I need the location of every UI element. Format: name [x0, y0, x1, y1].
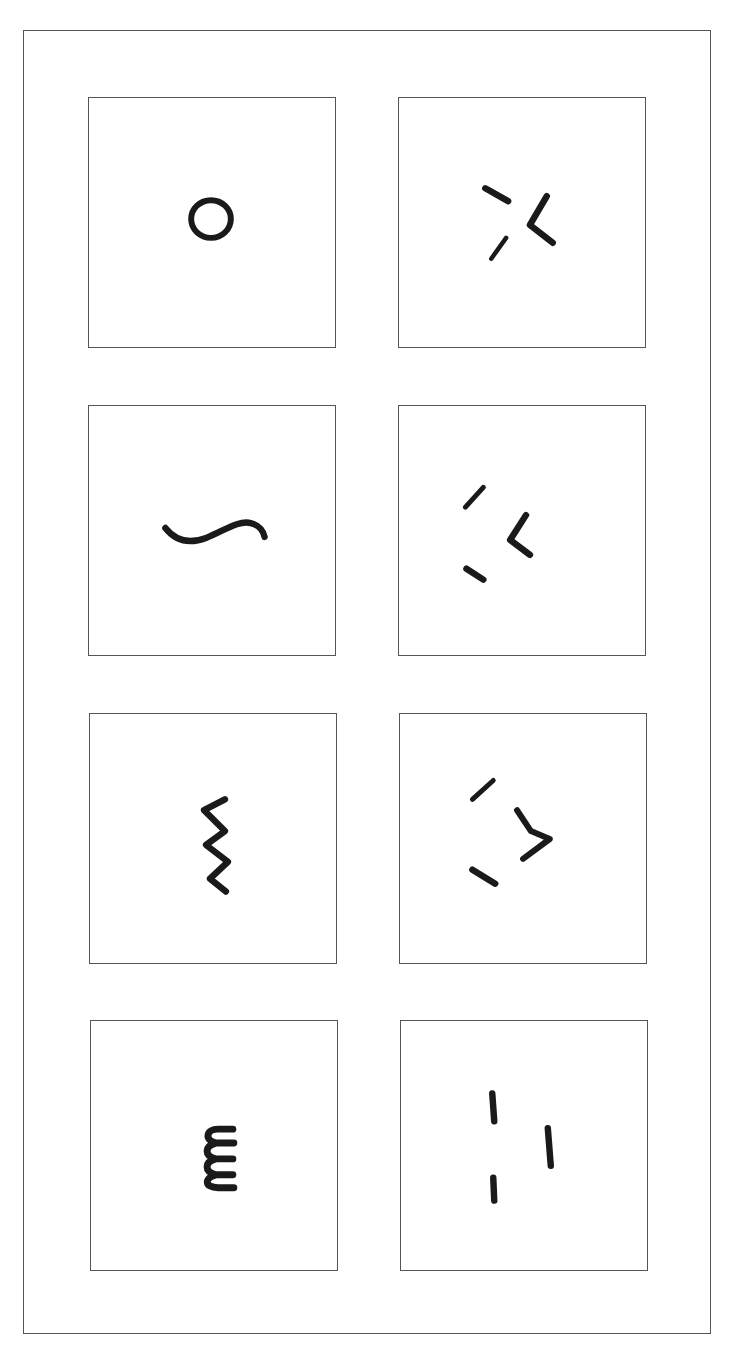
- panel-row4-right: [400, 1020, 648, 1271]
- panel-row1-right: [398, 97, 646, 348]
- coil-shape-icon: [91, 1021, 337, 1270]
- panel-row2-left: [88, 405, 336, 656]
- panel-row3-right: [399, 713, 647, 964]
- panel-row4-left: [90, 1020, 338, 1271]
- scattered-strokes-angle-icon: [399, 406, 645, 655]
- panel-row2-right: [398, 405, 646, 656]
- panel-row1-left: [88, 97, 336, 348]
- vertical-bars-icon: [401, 1021, 647, 1270]
- wave-shape-icon: [89, 406, 335, 655]
- scattered-strokes-angle-icon: [399, 98, 645, 347]
- scattered-strokes-chevron-icon: [400, 714, 646, 963]
- zigzag-shape-icon: [90, 714, 336, 963]
- panel-row3-left: [89, 713, 337, 964]
- circle-shape-icon: [89, 98, 335, 347]
